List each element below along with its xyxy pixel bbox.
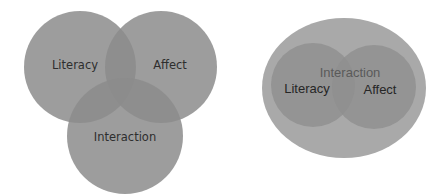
nested-venn: Interaction Literacy Affect (262, 18, 426, 158)
interaction-label: Interaction (94, 130, 156, 144)
literacy-inner-label: Literacy (284, 81, 330, 96)
diagram-canvas: Literacy Affect Interaction Interaction … (0, 0, 448, 196)
affect-label: Affect (153, 58, 187, 72)
affect-inner-label: Affect (363, 82, 396, 97)
interaction-container-label: Interaction (320, 65, 381, 80)
literacy-label: Literacy (52, 58, 98, 72)
three-circle-venn: Literacy Affect Interaction (24, 11, 217, 194)
